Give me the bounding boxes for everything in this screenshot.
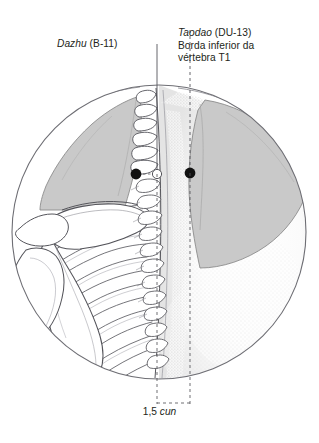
- acupoint-figure: Dazhu (B-11) Taodao (DU-13) Borda inferi…: [0, 0, 319, 443]
- measure-value: 1,5: [143, 406, 157, 417]
- taodao-label: Taodao (DU-13) Borda inferior da vértebr…: [178, 27, 254, 65]
- taodao-code: (DU-13): [215, 27, 252, 38]
- dazhu-point[interactable]: [131, 169, 142, 180]
- dazhu-label: Dazhu (B-11): [57, 38, 117, 51]
- taodao-description-line-2: vértebra T1: [178, 52, 254, 65]
- dazhu-code: (B-11): [90, 38, 118, 49]
- taodao-term: Taodao: [178, 27, 212, 38]
- measure-unit: cun: [160, 406, 176, 417]
- measure-label: 1,5 cun: [0, 406, 319, 417]
- anatomy-illustration-svg: [0, 0, 319, 443]
- circular-view: [0, 80, 319, 396]
- taodao-description-line-1: Borda inferior da: [178, 40, 254, 53]
- dazhu-term: Dazhu: [57, 38, 87, 49]
- humerus-shading-2: [10, 300, 34, 350]
